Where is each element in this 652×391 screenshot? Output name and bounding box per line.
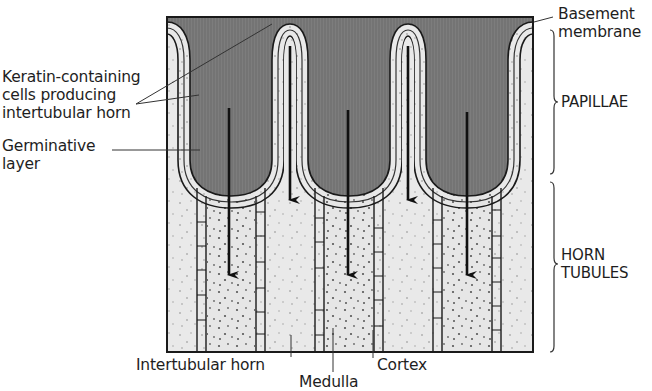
label-horn-tubules: HORN TUBULES [561, 246, 628, 282]
diagram-canvas [0, 0, 652, 391]
dermis-region [167, 17, 533, 196]
region-brackets [550, 30, 558, 352]
papillae-bracket [550, 30, 558, 174]
hoof-horn-diagram: Keratin-containing cells producing inter… [0, 0, 652, 391]
label-papillae: PAPILLAE [561, 93, 628, 111]
label-intertubular-horn: Intertubular horn [136, 356, 265, 374]
label-medulla: Medulla [299, 373, 358, 391]
label-basement-membrane: Basement membrane [558, 5, 641, 41]
horn-tubules-bracket [550, 182, 558, 352]
label-germinative-layer: Germinative layer [2, 137, 95, 173]
label-keratin-cells: Keratin-containing cells producing inter… [2, 68, 141, 122]
label-cortex: Cortex [377, 356, 427, 374]
